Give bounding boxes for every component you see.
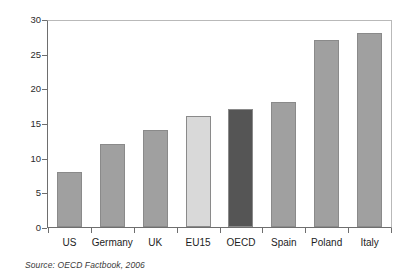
y-tick-label: 0 bbox=[0, 223, 41, 233]
bar-slot bbox=[91, 20, 134, 227]
x-tick-mark bbox=[220, 228, 221, 233]
x-tick-label-poland: Poland bbox=[305, 235, 348, 253]
y-axis: 051015202530 bbox=[0, 20, 41, 228]
y-tick-mark bbox=[42, 55, 47, 56]
bar-slot bbox=[134, 20, 177, 227]
bar-slot bbox=[48, 20, 91, 227]
x-tick-label-us: US bbox=[48, 235, 91, 253]
bar-series bbox=[48, 20, 391, 227]
source-note: Source: OECD Factbook, 2006 bbox=[25, 260, 145, 270]
bar-oecd bbox=[228, 109, 253, 227]
x-axis-labels: USGermanyUKEU15OECDSpainPolandItaly bbox=[48, 235, 391, 253]
x-tick-mark bbox=[134, 228, 135, 233]
x-tick-mark bbox=[305, 228, 306, 233]
x-tick-label-eu15: EU15 bbox=[177, 235, 220, 253]
x-tick-label-germany: Germany bbox=[91, 235, 134, 253]
bar-slot bbox=[220, 20, 263, 227]
x-tick-mark bbox=[391, 228, 392, 233]
x-tick-mark bbox=[91, 228, 92, 233]
x-tick-label-italy: Italy bbox=[348, 235, 391, 253]
y-tick-label: 20 bbox=[0, 85, 41, 95]
x-tick-label-uk: UK bbox=[134, 235, 177, 253]
x-tick-mark bbox=[177, 228, 178, 233]
x-tick-mark bbox=[48, 228, 49, 233]
y-tick-label: 5 bbox=[0, 189, 41, 199]
y-tick-label: 30 bbox=[0, 15, 41, 25]
bar-slot bbox=[262, 20, 305, 227]
bar-chart-figure: 051015202530 USGermanyUKEU15OECDSpainPol… bbox=[0, 0, 413, 280]
x-axis-ticks bbox=[48, 228, 391, 233]
x-tick-label-oecd: OECD bbox=[220, 235, 263, 253]
y-tick-mark bbox=[42, 124, 47, 125]
y-tick-mark bbox=[42, 159, 47, 160]
y-tick-label: 15 bbox=[0, 119, 41, 129]
bar-spain bbox=[271, 102, 296, 227]
bar-slot bbox=[348, 20, 391, 227]
bar-us bbox=[57, 172, 82, 227]
y-tick-mark bbox=[42, 89, 47, 90]
bar-italy bbox=[357, 33, 382, 227]
bar-slot bbox=[305, 20, 348, 227]
bar-uk bbox=[143, 130, 168, 227]
y-tick-label: 25 bbox=[0, 50, 41, 60]
bar-poland bbox=[314, 40, 339, 227]
y-tick-mark bbox=[42, 228, 47, 229]
bar-germany bbox=[100, 144, 125, 227]
y-tick-label: 10 bbox=[0, 154, 41, 164]
bar-slot bbox=[177, 20, 220, 227]
x-tick-label-spain: Spain bbox=[262, 235, 305, 253]
x-tick-mark bbox=[262, 228, 263, 233]
x-tick-mark bbox=[348, 228, 349, 233]
bar-eu15 bbox=[186, 116, 211, 227]
y-tick-mark bbox=[42, 193, 47, 194]
y-tick-mark bbox=[42, 20, 47, 21]
